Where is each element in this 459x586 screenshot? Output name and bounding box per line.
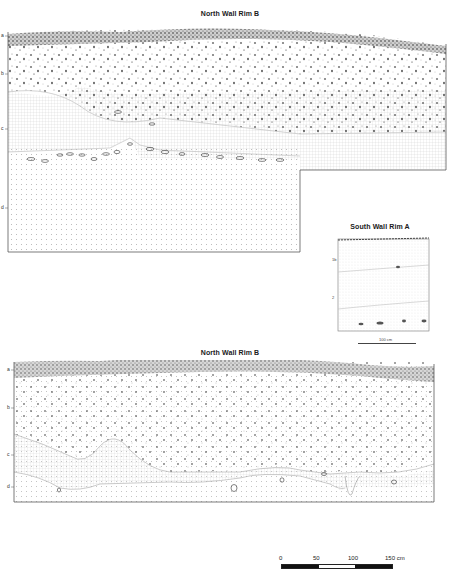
profile-north-wall-bottom: a b c d bbox=[0, 360, 459, 510]
inset-layer-label-2: 2 bbox=[332, 295, 334, 300]
scale-bar-segment-100-150 bbox=[355, 565, 392, 568]
layer-label-c: c bbox=[7, 451, 10, 457]
profile-north-wall-top: a b c d bbox=[0, 28, 459, 268]
layer-label-b: b bbox=[1, 70, 4, 76]
layer-label-a: a bbox=[7, 366, 10, 372]
scale-bar-segment-50-100 bbox=[319, 565, 356, 568]
scale-bar-segment-0-50 bbox=[282, 565, 319, 568]
scale-bar bbox=[281, 564, 393, 569]
layer-label-c: c bbox=[1, 125, 4, 131]
scale-tick-0: 0 bbox=[279, 555, 282, 561]
panel-title-south-wall-inset: South Wall Rim A bbox=[330, 223, 430, 230]
inset-scale-label: 100 cm bbox=[379, 337, 392, 342]
panel-title-north-wall-top: North Wall Rim B bbox=[150, 10, 310, 17]
layer-label-d: d bbox=[1, 204, 4, 210]
profile-south-wall-inset: 1b 2 bbox=[336, 237, 432, 337]
layer-label-a: a bbox=[1, 32, 4, 38]
panel-title-north-wall-bottom: North Wall Rim B bbox=[150, 349, 310, 356]
inset-layer-label-1b: 1b bbox=[332, 257, 336, 262]
layer-label-b: b bbox=[7, 404, 10, 410]
scale-tick-150: 150 cm bbox=[385, 555, 405, 561]
scale-tick-50: 50 bbox=[313, 555, 320, 561]
layer-label-d: d bbox=[7, 483, 10, 489]
scale-tick-100: 100 bbox=[348, 555, 358, 561]
inset-scale-bar bbox=[358, 343, 416, 344]
